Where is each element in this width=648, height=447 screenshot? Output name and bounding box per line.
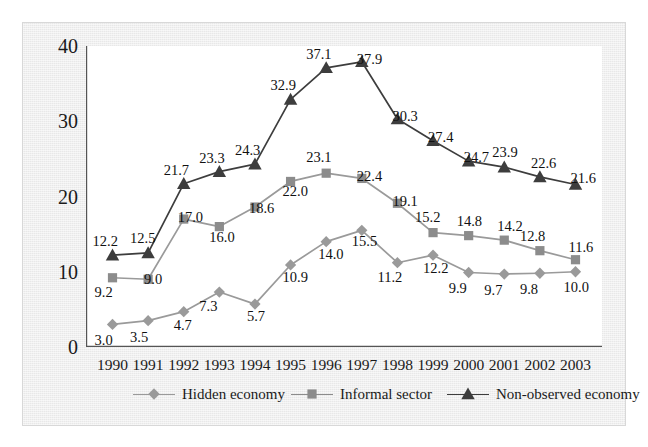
y-axis-tick-label: 30: [36, 111, 78, 131]
diamond-marker-icon: [534, 268, 545, 279]
triangle-marker-icon: [177, 177, 190, 189]
data-point-label: 32.9: [271, 78, 296, 93]
plot-area: [86, 46, 602, 347]
legend-label: Informal sector: [340, 386, 432, 403]
data-point-label: 24.7: [464, 150, 489, 165]
diamond-marker-icon: [142, 315, 153, 326]
data-point-label: 16.0: [209, 230, 234, 245]
data-point-label: 23.3: [199, 151, 224, 166]
data-point-label: 23.1: [306, 150, 331, 165]
series-group: [106, 55, 582, 330]
y-axis-tick-label: 10: [36, 262, 78, 282]
data-point-label: 22.0: [283, 184, 308, 199]
diamond-marker-icon: [427, 250, 438, 261]
data-point-label: 5.7: [247, 309, 265, 324]
data-point-label: 9.2: [95, 285, 113, 300]
chart-figure: 010203040 199019911992199319941995199619…: [22, 22, 626, 426]
data-point-label: 14.0: [318, 247, 343, 262]
legend-item-informal-sector[interactable]: Informal sector: [291, 383, 432, 405]
y-axis-tick-label: 0: [36, 337, 78, 357]
legend-label: Non-observed economy: [496, 386, 640, 403]
data-point-label: 24.3: [235, 143, 260, 158]
diamond-marker-icon: [148, 388, 159, 399]
x-axis-tick-label: 2003: [553, 357, 599, 373]
data-point-label: 30.3: [392, 109, 417, 124]
data-point-label: 19.1: [392, 194, 417, 209]
data-point-label: 7.3: [199, 299, 217, 314]
triangle-marker-icon: [461, 387, 475, 401]
square-marker-icon: [535, 246, 544, 255]
square-marker-icon: [108, 273, 117, 282]
diamond-marker-icon: [107, 319, 118, 330]
data-point-label: 3.5: [130, 330, 148, 345]
diamond-marker-icon: [499, 268, 510, 279]
data-point-label: 14.2: [497, 219, 522, 234]
diamond-marker-icon: [214, 286, 225, 297]
data-point-label: 21.6: [571, 171, 596, 186]
data-point-label: 4.7: [174, 318, 192, 333]
axes-group: [86, 46, 602, 347]
diamond-marker-icon: [133, 386, 175, 402]
triangle-marker-icon: [461, 387, 474, 399]
data-point-label: 9.7: [484, 283, 502, 298]
triangle-marker-icon: [447, 386, 489, 402]
data-point-label: 10.0: [564, 280, 589, 295]
square-marker-icon: [464, 231, 473, 240]
plot-svg: [86, 46, 602, 347]
legend-item-hidden-economy[interactable]: Hidden economy: [133, 383, 285, 405]
data-point-label: 12.2: [423, 261, 448, 276]
data-point-label: 23.9: [492, 145, 517, 160]
data-point-label: 11.2: [377, 270, 402, 285]
data-point-label: 11.6: [569, 240, 594, 255]
data-point-label: 17.0: [178, 210, 203, 225]
data-point-label: 9.9: [449, 281, 467, 296]
data-point-label: 15.5: [352, 234, 377, 249]
data-point-label: 12.8: [520, 229, 545, 244]
chart-legend: Hidden economyInformal sectorNon-observe…: [23, 383, 627, 409]
square-marker-icon: [307, 389, 316, 398]
diamond-marker-icon: [570, 266, 581, 277]
data-point-label: 9.0: [144, 272, 162, 287]
data-point-label: 12.5: [130, 231, 155, 246]
square-marker-icon: [322, 169, 331, 178]
data-point-label: 10.9: [283, 270, 308, 285]
data-point-label: 21.7: [164, 163, 189, 178]
data-point-label: 3.0: [95, 333, 113, 348]
data-point-label: 37.1: [306, 47, 331, 62]
data-point-label: 37.9: [357, 52, 382, 67]
legend-label: Hidden economy: [182, 386, 285, 403]
series-hidden-economy: [107, 225, 581, 330]
diamond-marker-icon: [463, 267, 474, 278]
triangle-marker-icon: [141, 246, 154, 258]
data-point-label: 18.6: [249, 201, 274, 216]
square-marker-icon: [500, 236, 509, 245]
data-point-label: 12.2: [93, 234, 118, 249]
data-point-label: 14.8: [457, 214, 482, 229]
data-point-label: 22.4: [357, 169, 382, 184]
legend-item-non-observed-economy[interactable]: Non-observed economy: [447, 383, 640, 405]
y-axis-tick-label: 40: [36, 36, 78, 56]
triangle-marker-icon: [248, 158, 261, 170]
diamond-marker-icon: [147, 387, 161, 401]
square-marker-icon: [291, 386, 333, 402]
y-axis-tick-label: 20: [36, 187, 78, 207]
data-point-label: 9.8: [520, 282, 538, 297]
diamond-marker-icon: [178, 306, 189, 317]
square-marker-icon: [305, 387, 319, 401]
data-point-label: 15.2: [415, 210, 440, 225]
square-marker-icon: [571, 255, 580, 264]
square-marker-icon: [428, 228, 437, 237]
data-point-label: 22.6: [531, 156, 556, 171]
data-point-label: 27.4: [428, 130, 453, 145]
